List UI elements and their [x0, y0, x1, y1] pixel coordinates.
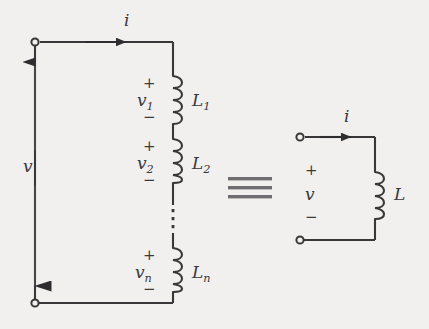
right-terminal-bottom — [296, 236, 303, 243]
left-source-voltage-label: v — [23, 158, 33, 175]
inductor-L-coil — [375, 172, 384, 219]
v1-minus-sign: − — [143, 110, 156, 125]
left-circuit-group — [31, 38, 182, 306]
left-terminal-top — [31, 38, 38, 45]
right-current-label: i — [344, 108, 349, 125]
right-voltage-label: v — [305, 186, 315, 203]
left-terminal-bottom — [31, 299, 38, 306]
inductor-L1-label: L1 — [192, 92, 210, 113]
v1-plus-sign: + — [143, 76, 156, 91]
right-plus-sign: + — [305, 163, 318, 178]
vn-plus-sign: + — [143, 248, 156, 263]
v2-plus-sign: + — [143, 139, 156, 154]
v2-minus-sign: − — [143, 173, 156, 188]
inductor-Ln-coil — [173, 248, 182, 292]
inductor-L1-coil — [173, 76, 182, 124]
equivalence-symbol — [228, 177, 272, 198]
inductor-L-label: L — [394, 186, 405, 203]
left-current-label: i — [124, 12, 129, 29]
circuit-svg — [0, 0, 429, 329]
inductor-ellipsis — [172, 209, 175, 228]
inductor-L2-label: L2 — [192, 155, 210, 176]
inductor-L2-coil — [173, 139, 182, 183]
right-minus-sign: − — [305, 210, 318, 225]
inductor-Ln-label: Ln — [192, 264, 211, 285]
right-terminal-top — [296, 133, 303, 140]
vn-minus-sign: − — [143, 282, 156, 297]
